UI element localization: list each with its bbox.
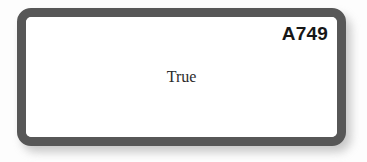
card-surface: A749 True bbox=[26, 17, 337, 137]
scanned-answer-sheet: A749 True bbox=[0, 0, 367, 162]
question-code-label: A749 bbox=[282, 24, 328, 43]
answer-card: A749 True bbox=[17, 8, 346, 146]
answer-value: True bbox=[26, 69, 337, 85]
